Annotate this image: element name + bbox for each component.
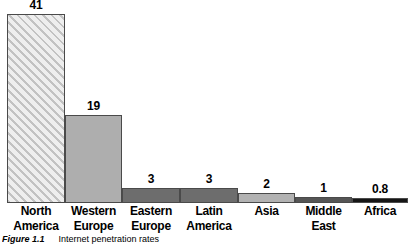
category-label-africa: Africa bbox=[352, 204, 408, 219]
bar-column-latin-america: 3 bbox=[180, 0, 238, 203]
figure-internet-penetration: 41 19 3 3 2 1 0.8 North bbox=[0, 0, 413, 244]
bar-value-label: 3 bbox=[180, 173, 238, 186]
category-label-line2: Europe bbox=[65, 219, 122, 234]
bar-africa bbox=[352, 198, 408, 203]
category-label-line1: Asia bbox=[238, 204, 295, 219]
category-label-line1: Western bbox=[65, 204, 122, 219]
category-label-asia: Asia bbox=[238, 204, 295, 219]
category-axis-labels: North America Western Europe Eastern Eur… bbox=[7, 204, 408, 236]
bar-column-western-europe: 19 bbox=[65, 0, 122, 203]
category-label-line2: East bbox=[295, 219, 352, 234]
bar-column-north-america: 41 bbox=[7, 0, 65, 203]
bar-value-label: 41 bbox=[7, 0, 65, 12]
category-label-line1: Eastern bbox=[122, 204, 180, 219]
figure-caption-number: Figure 1.1 bbox=[2, 234, 45, 244]
category-label-middle-east: Middle East bbox=[295, 204, 352, 234]
category-label-line2: America bbox=[180, 219, 238, 234]
bar-latin-america bbox=[180, 188, 238, 203]
category-label-line1: Middle bbox=[295, 204, 352, 219]
bar-value-label: 2 bbox=[238, 178, 295, 191]
bar-western-europe bbox=[65, 115, 122, 203]
bar-asia bbox=[238, 193, 295, 203]
category-label-line1: Latin bbox=[180, 204, 238, 219]
figure-caption-text: Internet penetration rates bbox=[59, 234, 160, 244]
category-label-line2: Europe bbox=[122, 219, 180, 234]
category-label-north-america: North America bbox=[7, 204, 65, 234]
bar-value-label: 19 bbox=[65, 100, 122, 113]
figure-caption: Figure 1.1Internet penetration rates bbox=[2, 234, 412, 244]
bar-chart-plot-area: 41 19 3 3 2 1 0.8 bbox=[7, 0, 408, 203]
category-label-latin-america: Latin America bbox=[180, 204, 238, 234]
bar-column-africa: 0.8 bbox=[352, 0, 408, 203]
bar-column-asia: 2 bbox=[238, 0, 295, 203]
bar-column-middle-east: 1 bbox=[295, 0, 352, 203]
bar-eastern-europe bbox=[122, 188, 180, 203]
category-label-line1: Africa bbox=[352, 204, 408, 219]
bar-middle-east bbox=[295, 197, 352, 203]
bar-north-america bbox=[7, 14, 65, 203]
bar-value-label: 0.8 bbox=[352, 183, 408, 196]
category-label-eastern-europe: Eastern Europe bbox=[122, 204, 180, 234]
bar-value-label: 3 bbox=[122, 173, 180, 186]
category-label-western-europe: Western Europe bbox=[65, 204, 122, 234]
bar-column-eastern-europe: 3 bbox=[122, 0, 180, 203]
bar-value-label: 1 bbox=[295, 182, 352, 195]
category-label-line2: America bbox=[7, 219, 65, 234]
category-label-line1: North bbox=[7, 204, 65, 219]
